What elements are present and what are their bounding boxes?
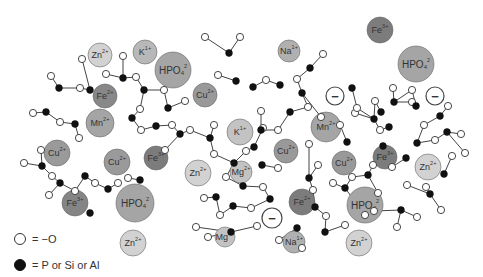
bond-line [82,59,90,90]
ion-zn4: Zn2+ [120,230,146,256]
oxygen-node [160,86,167,93]
oxygen-node [374,189,381,196]
ion-hpo3: HPO42 [116,184,154,222]
oxygen-node [408,86,415,93]
oxygen-node [413,213,420,220]
oxygen-node [259,183,266,190]
oxygen-node [257,107,264,114]
oxygen-node [369,161,376,168]
oxygen-node [322,212,329,219]
ion-zn3: Zn2+ [415,154,441,180]
tetrahedral-node [441,171,448,178]
oxygen-node [48,172,55,179]
oxygen-node [161,146,168,153]
oxygen-node [29,109,36,116]
tetrahedral-node [437,113,444,120]
oxygen-node [132,73,139,80]
tetrahedral-node [87,210,94,217]
ion-hpo1: HPO42 [155,52,191,88]
oxygen-node [317,113,324,120]
oxygen-node [304,103,311,110]
oxygen-node [45,191,52,198]
tetrahedral-node [240,183,247,190]
ion-hpo2: HPO42 [398,46,434,82]
legend-tetrahedral: = P or Si or Al [14,258,99,272]
tetrahedral-node [57,180,64,187]
oxygen-node [457,130,464,137]
oxygen-node [298,244,305,251]
oxygen-node [361,211,368,218]
tetrahedral-node [120,75,127,82]
tetrahedral-node [344,139,351,146]
oxygen-node [168,121,175,128]
oxygen-node [192,223,199,230]
oxygen-node [253,222,260,229]
tetrahedral-node [231,160,238,167]
tetrahedral-node [403,155,410,162]
tetrahedral-node [398,207,405,214]
tetrahedral-node [250,84,257,91]
oxygen-node [102,70,109,77]
tetrahedral-node [277,82,284,89]
oxygen-node [420,121,427,128]
filled-circle-icon [14,259,26,271]
tetrahedral-node [226,50,233,57]
tetrahedral-node [56,85,63,92]
zeolite-framework-diagram: Zn2+K1+HPO42Fe2+Mn2+Cu2+Na1+Fe3+HPO42−−K… [0,0,483,277]
tetrahedral-node [213,194,220,201]
tetrahedral-node [141,87,148,94]
oxygen-node [274,126,281,133]
ion-minus2: − [426,87,444,105]
tetrahedral-node [129,115,136,122]
oxygen-node [37,146,44,153]
oxygen-node [422,183,429,190]
ion-label: − [331,89,339,104]
oxygen-node [376,126,383,133]
ion-cu5: Cu2+ [332,151,356,175]
tetrahedral-node [414,140,421,147]
oxygen-node [448,152,455,159]
oxygen-node [319,50,326,57]
oxygen-node [341,221,348,228]
oxygen-node [78,55,85,62]
tetrahedral-node [342,185,349,192]
oxygen-node [76,84,83,91]
ion-mn1: Mn2+ [86,109,114,137]
oxygen-node [124,174,131,181]
oxygen-node [275,236,282,243]
oxygen-node [114,179,121,186]
tetrahedral-node [444,129,451,136]
tetrahedral-node [259,162,266,169]
ion-cu1: Cu2+ [193,83,217,107]
tetrahedral-node [312,204,319,211]
tetrahedral-node [87,87,94,94]
ion-k1: K1+ [133,40,157,64]
oxygen-node [137,126,144,133]
oxygen-node [274,164,281,171]
oxygen-node [389,84,396,91]
ion-zn1: Zn2+ [88,43,112,67]
oxygen-node [348,173,355,180]
ion-zn2: Zn2+ [185,160,211,186]
oxygen-node [393,223,400,230]
legend-oxygen: = −O [14,232,99,246]
ion-na1: Na1+ [278,40,300,62]
oxygen-node [214,71,221,78]
oxygen-node [136,105,143,112]
oxygen-node [236,33,243,40]
legend-oxygen-label: = −O [32,233,56,245]
tetrahedral-node [294,225,301,232]
tetrahedral-node [306,175,313,182]
tetrahedral-node [72,121,79,128]
tetrahedral-node [228,229,235,236]
tetrahedral-node [267,196,274,203]
tetrahedral-node [386,124,393,131]
oxygen-node [91,179,98,186]
oxygen-node [293,75,300,82]
bond-line [205,37,229,53]
tetrahedral-node [230,203,237,210]
oxygen-node [403,181,410,188]
ion-cu4: Cu2+ [274,139,298,163]
tetrahedral-node [287,109,294,116]
oxygen-node [56,118,63,125]
